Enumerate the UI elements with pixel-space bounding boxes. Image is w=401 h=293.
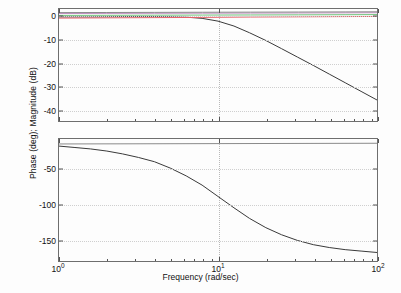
y-axis-label: Phase (deg); Magnitude (dB) xyxy=(28,28,38,218)
x-tick-mark xyxy=(378,117,379,121)
x-minor-tick-mark xyxy=(295,119,296,121)
y-tick-mark xyxy=(373,39,377,40)
x-tick-label-exponent: 0 xyxy=(61,262,65,269)
y-tick-mark xyxy=(373,16,377,17)
gridline-vertical xyxy=(219,139,220,261)
y-tick-label: 0 xyxy=(51,11,56,21)
y-tick-label: -10 xyxy=(44,35,56,45)
x-tick-label: 100 xyxy=(51,264,64,274)
x-minor-tick-mark xyxy=(315,119,316,121)
gridline-horizontal xyxy=(59,205,377,206)
x-tick-mark xyxy=(378,139,379,143)
y-tick-label: -150 xyxy=(39,236,56,246)
x-minor-tick-mark xyxy=(135,259,136,261)
magnitude-curves xyxy=(59,9,377,121)
y-tick-mark xyxy=(59,111,63,112)
y-tick-mark xyxy=(373,241,377,242)
x-tick-mark xyxy=(219,139,220,143)
x-minor-tick-mark xyxy=(212,119,213,121)
x-minor-tick-mark xyxy=(331,119,332,121)
x-tick-mark xyxy=(59,139,60,143)
gridline-horizontal xyxy=(59,40,377,41)
y-tick-mark xyxy=(59,241,63,242)
x-minor-tick-mark xyxy=(184,259,185,261)
x-minor-tick-mark xyxy=(171,259,172,261)
curve-phase-gray-top xyxy=(59,143,377,144)
x-tick-mark xyxy=(219,257,220,261)
x-minor-tick-mark xyxy=(171,119,172,121)
x-tick-mark xyxy=(378,9,379,13)
y-tick-label: -100 xyxy=(39,200,56,210)
y-tick-label: -50 xyxy=(44,164,56,174)
x-minor-tick-mark xyxy=(354,119,355,121)
x-minor-tick-mark xyxy=(295,259,296,261)
x-minor-tick-mark xyxy=(344,259,345,261)
x-tick-mark xyxy=(59,257,60,261)
curve-phase-main xyxy=(59,146,377,252)
x-minor-tick-mark xyxy=(212,259,213,261)
x-minor-tick-mark xyxy=(155,119,156,121)
x-minor-tick-mark xyxy=(344,119,345,121)
gridline-horizontal xyxy=(59,87,377,88)
y-tick-label: -40 xyxy=(44,106,56,116)
y-tick-mark xyxy=(59,87,63,88)
y-tick-mark xyxy=(59,205,63,206)
x-minor-tick-mark xyxy=(315,259,316,261)
x-minor-tick-mark xyxy=(107,119,108,121)
x-minor-tick-mark xyxy=(203,259,204,261)
x-minor-tick-mark xyxy=(354,259,355,261)
phase-subplot: -50-100-150 xyxy=(58,138,378,262)
x-minor-tick-mark xyxy=(155,259,156,261)
gridline-horizontal xyxy=(59,111,377,112)
magnitude-subplot: 0-10-20-30-40 xyxy=(58,8,378,122)
gridline-horizontal xyxy=(59,16,377,17)
x-tick-mark xyxy=(59,117,60,121)
x-tick-label: 102 xyxy=(371,264,384,274)
y-tick-mark xyxy=(59,39,63,40)
y-tick-label: -30 xyxy=(44,82,56,92)
x-minor-tick-mark xyxy=(203,119,204,121)
x-tick-mark xyxy=(219,117,220,121)
x-minor-tick-mark xyxy=(194,119,195,121)
x-tick-label-exponent: 1 xyxy=(221,262,225,269)
gridline-horizontal xyxy=(59,64,377,65)
gridline-horizontal xyxy=(59,241,377,242)
x-tick-mark xyxy=(219,9,220,13)
x-minor-tick-mark xyxy=(267,119,268,121)
phase-curves xyxy=(59,139,377,261)
y-tick-mark xyxy=(59,63,63,64)
x-minor-tick-mark xyxy=(107,259,108,261)
y-tick-mark xyxy=(373,63,377,64)
y-tick-mark xyxy=(373,111,377,112)
x-tick-mark xyxy=(378,257,379,261)
y-tick-mark xyxy=(59,169,63,170)
x-minor-tick-mark xyxy=(363,119,364,121)
x-tick-mark xyxy=(59,9,60,13)
x-tick-label-exponent: 2 xyxy=(381,262,385,269)
x-minor-tick-mark xyxy=(267,259,268,261)
y-tick-mark xyxy=(373,87,377,88)
x-minor-tick-mark xyxy=(331,259,332,261)
y-tick-mark xyxy=(373,205,377,206)
y-tick-mark xyxy=(373,169,377,170)
x-minor-tick-mark xyxy=(372,119,373,121)
x-minor-tick-mark xyxy=(194,259,195,261)
gridline-horizontal xyxy=(59,169,377,170)
y-tick-label: -20 xyxy=(44,59,56,69)
y-tick-mark xyxy=(59,16,63,17)
x-minor-tick-mark xyxy=(135,119,136,121)
gridline-vertical xyxy=(219,9,220,121)
bode-plot-figure: Phase (deg); Magnitude (dB) Frequency (r… xyxy=(0,0,401,293)
x-tick-label: 101 xyxy=(211,264,224,274)
x-minor-tick-mark xyxy=(184,119,185,121)
x-minor-tick-mark xyxy=(363,259,364,261)
x-minor-tick-mark xyxy=(372,259,373,261)
